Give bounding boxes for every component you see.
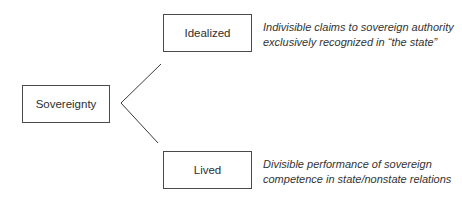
sovereignty-node: Sovereignty xyxy=(22,85,110,123)
connector-to-lived xyxy=(121,103,158,143)
idealized-description-line-1: Indivisible claims to sovereign authorit… xyxy=(263,20,454,35)
lived-description-line-1: Divisible performance of sovereign xyxy=(263,157,451,172)
lived-node: Lived xyxy=(163,151,252,189)
lived-label: Lived xyxy=(194,164,222,176)
lived-description: Divisible performance of sovereign compe… xyxy=(263,157,451,187)
idealized-description: Indivisible claims to sovereign authorit… xyxy=(263,20,454,50)
sovereignty-label: Sovereignty xyxy=(36,98,97,110)
connector-to-idealized xyxy=(121,64,161,103)
lived-description-line-2: competence in state/nonstate relations xyxy=(263,172,451,187)
idealized-label: Idealized xyxy=(184,27,230,39)
idealized-node: Idealized xyxy=(163,14,252,52)
idealized-description-line-2: exclusively recognized in “the state” xyxy=(263,35,454,50)
